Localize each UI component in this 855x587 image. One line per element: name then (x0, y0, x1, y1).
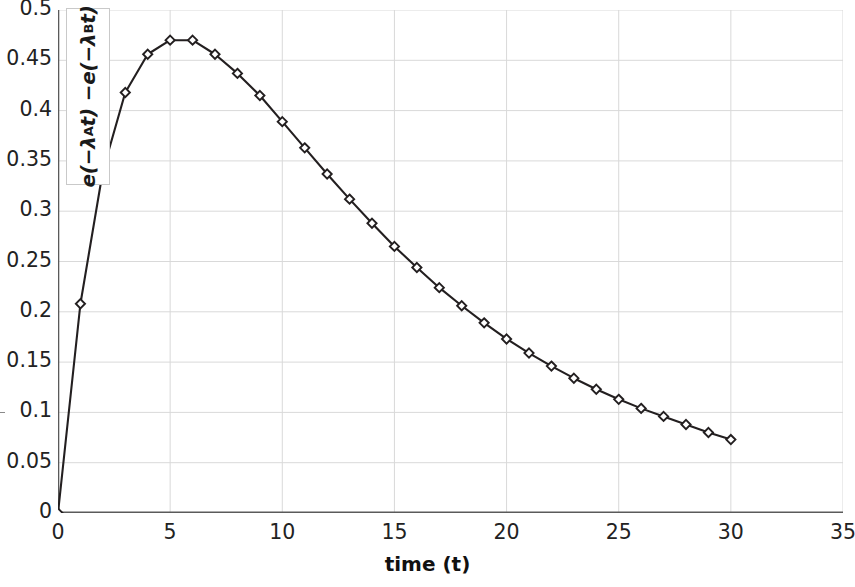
y-axis-title-box: e(−λAt) −e(−λBt) (66, 8, 110, 185)
y-axis-tick-label: 0.3 (0, 197, 52, 221)
data-point-marker (704, 428, 713, 437)
x-axis-tick-label: 25 (589, 520, 649, 544)
y-axis-tick-label: 0.05 (0, 449, 52, 473)
x-axis-tick-label: 5 (140, 520, 200, 544)
data-point-marker (58, 508, 63, 513)
data-markers (58, 36, 735, 513)
data-point-marker (726, 435, 735, 444)
data-point-marker (659, 412, 668, 421)
y-axis-tick-label: 0.15 (0, 348, 52, 372)
y-axis-tick-label: 0.35 (0, 147, 52, 171)
x-axis-tick-label: 15 (364, 520, 424, 544)
data-point-marker (76, 299, 85, 308)
chart-svg (58, 10, 843, 513)
plot-area (58, 10, 843, 513)
data-point-marker (681, 420, 690, 429)
y-axis-tick-label: 0.5 (0, 0, 52, 20)
data-point-marker (592, 385, 601, 394)
data-point-marker (637, 404, 646, 413)
x-axis-tick-label: 0 (28, 520, 88, 544)
y-axis-tick-label: 0.1 (0, 398, 52, 422)
data-point-marker (547, 362, 556, 371)
x-axis-tick-label: 20 (477, 520, 537, 544)
x-axis-title: time (t) (0, 552, 855, 576)
y-axis-edge-tick (0, 412, 5, 413)
y-axis-title: e(−λAt) −e(−λBt) (67, 9, 109, 184)
y-axis-tick-label: 0.45 (0, 46, 52, 70)
y-axis-tick-label: 0.2 (0, 298, 52, 322)
chart-figure: 00.050.10.150.20.250.30.350.40.450.5 e(−… (0, 0, 855, 587)
x-axis-tick-label: 10 (252, 520, 312, 544)
y-axis-tick-label: 0.25 (0, 248, 52, 272)
data-point-marker (614, 395, 623, 404)
x-axis-tick-label: 30 (701, 520, 761, 544)
data-point-marker (121, 88, 130, 97)
data-point-marker (569, 374, 578, 383)
y-axis-tick-label: 0.4 (0, 97, 52, 121)
x-axis-tick-label: 35 (813, 520, 855, 544)
